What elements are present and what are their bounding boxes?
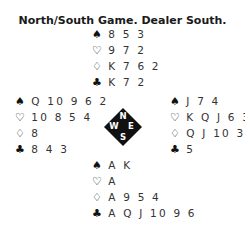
spade-icon: ♠ [12, 94, 28, 110]
north-diamonds-row: ♢ K 7 6 2 [89, 58, 161, 74]
east-spades: J 7 4 [186, 93, 220, 109]
north-clubs: K 7 2 [108, 74, 146, 90]
diamond-icon: ♢ [167, 126, 183, 142]
diamond-icon: ♢ [89, 190, 105, 206]
west-hearts: 10 8 5 4 [31, 109, 92, 125]
west-hand: ♠ Q 10 9 6 2 ♡ 10 8 5 4 ♢ 8 ♣ 8 4 3 [12, 93, 108, 157]
spade-icon: ♠ [89, 158, 105, 174]
east-spades-row: ♠ J 7 4 [167, 93, 245, 109]
heart-icon: ♡ [167, 110, 183, 126]
club-icon: ♣ [12, 142, 28, 158]
south-clubs: A Q J 10 9 6 [108, 205, 196, 221]
east-diamonds-row: ♢ Q J 10 3 [167, 125, 245, 141]
south-hand: ♠ A K ♡ A ♢ A 9 5 4 ♣ A Q J 10 9 6 [89, 157, 197, 221]
west-clubs-row: ♣ 8 4 3 [12, 141, 108, 157]
south-spades: A K [108, 157, 132, 173]
south-diamonds: A 9 5 4 [108, 189, 161, 205]
diamond-icon: ♢ [89, 59, 105, 75]
heart-icon: ♡ [89, 174, 105, 190]
spade-icon: ♠ [167, 94, 183, 110]
west-diamonds: 8 [31, 125, 40, 141]
compass-east-label: E [126, 121, 136, 131]
south-spades-row: ♠ A K [89, 157, 197, 173]
west-spades-row: ♠ Q 10 9 6 2 [12, 93, 108, 109]
north-hand: ♠ 8 5 3 ♡ 9 7 2 ♢ K 7 6 2 ♣ K 7 2 [89, 26, 161, 90]
east-diamonds: Q J 10 3 [186, 125, 245, 141]
spade-icon: ♠ [89, 27, 105, 43]
east-hearts-row: ♡ K Q J 6 3 [167, 109, 245, 125]
north-hearts-row: ♡ 9 7 2 [89, 42, 161, 58]
east-clubs: 5 [186, 141, 195, 157]
south-hearts-row: ♡ A [89, 173, 197, 189]
north-hearts: 9 7 2 [108, 42, 146, 58]
heart-icon: ♡ [12, 110, 28, 126]
north-spades: 8 5 3 [108, 26, 146, 42]
club-icon: ♣ [89, 75, 105, 91]
west-clubs: 8 4 3 [31, 141, 69, 157]
west-diamonds-row: ♢ 8 [12, 125, 108, 141]
west-spades: Q 10 9 6 2 [31, 93, 108, 109]
east-hand: ♠ J 7 4 ♡ K Q J 6 3 ♢ Q J 10 3 ♣ 5 [167, 93, 245, 157]
south-clubs-row: ♣ A Q J 10 9 6 [89, 205, 197, 221]
compass-diamond: N E S W [104, 108, 142, 146]
south-diamonds-row: ♢ A 9 5 4 [89, 189, 197, 205]
west-hearts-row: ♡ 10 8 5 4 [12, 109, 108, 125]
east-hearts: K Q J 6 3 [186, 109, 245, 125]
club-icon: ♣ [167, 142, 183, 158]
heart-icon: ♡ [89, 43, 105, 59]
north-spades-row: ♠ 8 5 3 [89, 26, 161, 42]
compass-west-label: W [109, 121, 119, 131]
compass-south-label: S [118, 132, 128, 142]
north-diamonds: K 7 6 2 [108, 58, 160, 74]
south-hearts: A [108, 173, 117, 189]
north-clubs-row: ♣ K 7 2 [89, 74, 161, 90]
diamond-icon: ♢ [12, 126, 28, 142]
east-clubs-row: ♣ 5 [167, 141, 245, 157]
club-icon: ♣ [89, 206, 105, 222]
compass-north-label: N [118, 111, 128, 121]
